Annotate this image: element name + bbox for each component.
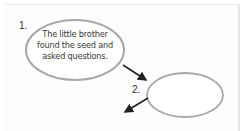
step-1-line-2: found the seed and [34, 40, 116, 51]
step-2-number: 2. [132, 84, 140, 95]
arrow-1-to-2 [123, 65, 146, 80]
step-1-number: 1. [19, 20, 27, 31]
step-1-line-3: asked questions. [34, 51, 116, 62]
arrow-2-to-3 [125, 98, 148, 112]
diagram-shapes [0, 0, 242, 131]
step-2-oval[interactable] [147, 73, 223, 117]
step-1-text: The little brother found the seed and as… [34, 29, 116, 62]
step-1-line-1: The little brother [34, 29, 116, 40]
